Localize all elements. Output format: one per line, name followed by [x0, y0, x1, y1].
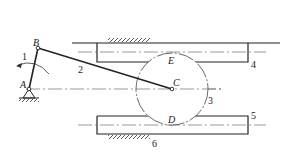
gear-3 — [136, 53, 224, 125]
label-D: D — [167, 114, 176, 125]
label-member-1: 1 — [22, 51, 27, 62]
label-member-4: 4 — [251, 59, 256, 70]
label-member-2: 2 — [78, 64, 83, 75]
label-B: B — [33, 37, 39, 48]
rotation-arrowhead-icon — [16, 63, 22, 68]
label-E: E — [167, 55, 174, 66]
ground-hatch-top — [108, 38, 150, 42]
joint-A-icon — [27, 87, 31, 91]
ground-hatch-bottom — [108, 135, 150, 139]
label-A: A — [19, 79, 27, 90]
label-C: C — [173, 77, 180, 88]
label-member-6: 6 — [152, 138, 157, 149]
label-member-3: 3 — [208, 95, 213, 106]
label-member-5: 5 — [251, 110, 256, 121]
mechanism-diagram: B A C E D 1 2 3 4 5 6 — [0, 0, 294, 158]
